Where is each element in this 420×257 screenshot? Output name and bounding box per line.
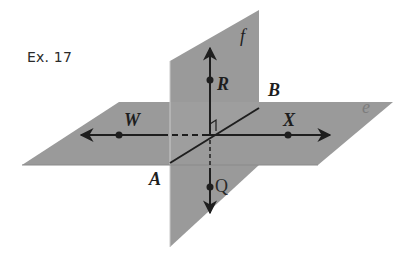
point-q <box>207 184 214 191</box>
plane-e-label: e <box>362 97 370 117</box>
label-b: B <box>267 80 280 100</box>
vertical-plane-upper <box>170 10 259 102</box>
label-w: W <box>124 110 142 130</box>
geometry-diagram: f e R B W X A Q <box>0 0 420 257</box>
label-a: A <box>148 169 161 189</box>
label-r: R <box>216 74 229 94</box>
point-x <box>285 132 292 139</box>
label-x: X <box>282 110 296 130</box>
label-q: Q <box>215 176 228 196</box>
point-r <box>207 77 214 84</box>
point-w <box>116 132 123 139</box>
